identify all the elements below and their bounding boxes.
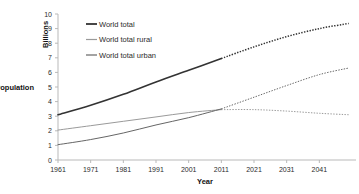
y-tick-label: 0 [48, 157, 52, 164]
y-tick-label: 6 [48, 69, 52, 76]
x-tick-label: 2031 [279, 166, 295, 173]
series-line-projected-0 [221, 23, 348, 58]
y-axis-title: Population [0, 83, 34, 92]
x-tick-label: 1991 [148, 166, 164, 173]
y-tick-label: 5 [48, 84, 52, 91]
chart-canvas: 0123456789101961197119811991200120112021… [0, 0, 359, 194]
y-tick-label: 1 [48, 142, 52, 149]
legend-label-1: World total rural [99, 35, 152, 44]
y-tick-label: 10 [44, 11, 52, 18]
legend-label-2: World total urban [99, 51, 156, 60]
legend-item-1: World total rural [86, 35, 152, 44]
x-tick-label: 1971 [83, 166, 99, 173]
series-line-historical-1 [58, 110, 221, 130]
population-line-chart: 0123456789101961197119811991200120112021… [0, 0, 359, 194]
series-line-projected-1 [221, 110, 348, 115]
y-tick-label: 7 [48, 54, 52, 61]
y-tick-label: 4 [48, 98, 52, 105]
x-tick-label: 2041 [312, 166, 328, 173]
x-tick-label: 1961 [50, 166, 66, 173]
series-line-historical-0 [58, 59, 221, 115]
legend-item-0: World total [86, 20, 135, 29]
x-tick-label: 2011 [214, 166, 229, 173]
x-axis-title: Year [197, 177, 213, 186]
y-tick-label: 2 [48, 127, 52, 134]
legend-label-0: World total [99, 20, 135, 29]
legend-item-2: World total urban [86, 51, 156, 60]
series-line-projected-2 [221, 68, 348, 109]
y-axis-unit-label: Billions [41, 21, 50, 48]
y-tick-label: 3 [48, 113, 52, 120]
x-tick-label: 1981 [116, 166, 132, 173]
x-tick-label: 2021 [246, 166, 262, 173]
x-tick-label: 2001 [181, 166, 197, 173]
